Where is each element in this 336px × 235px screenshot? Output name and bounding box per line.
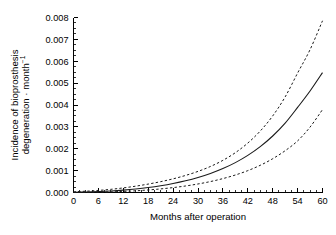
x-axis-tick-label: 0 xyxy=(71,196,76,206)
y-axis-tick-label: 0.004 xyxy=(46,100,69,110)
series-line xyxy=(74,21,323,192)
y-axis-tick-label: 0.005 xyxy=(46,78,69,88)
series-line xyxy=(74,73,323,193)
y-axis-major-ticks xyxy=(74,18,79,193)
incidence-line-chart: 0.0000.0010.0020.0030.0040.0050.0060.007… xyxy=(0,0,336,235)
y-axis-tick-label: 0.002 xyxy=(46,144,69,154)
y-axis-tick-label: 0.000 xyxy=(46,188,69,198)
x-axis-title: Months after operation xyxy=(150,211,246,222)
x-axis-tick-label: 12 xyxy=(118,196,128,206)
x-axis-tick-label: 24 xyxy=(168,196,178,206)
y-axis-tick-label: 0.007 xyxy=(46,35,69,45)
x-axis-tick-label: 30 xyxy=(193,196,203,206)
x-axis-tick-label: 36 xyxy=(218,196,228,206)
y-axis-tick-label: 0.006 xyxy=(46,57,69,67)
x-axis-tick-label: 54 xyxy=(292,196,302,206)
y-axis-tick-label: 0.001 xyxy=(46,166,69,176)
y-axis-tick-label: 0.003 xyxy=(46,122,69,132)
y-axis-tick-label: 0.008 xyxy=(46,13,69,23)
x-axis-tick-labels: 06121824303642485460 xyxy=(71,196,328,206)
y-axis-title: Incidence of bioprosthesis degeneration … xyxy=(9,49,31,160)
y-axis: 0.0000.0010.0020.0030.0040.0050.0060.007… xyxy=(46,13,79,198)
y-axis-title-line-1: Incidence of bioprosthesis xyxy=(9,49,20,160)
series-line xyxy=(74,110,323,193)
data-series-group xyxy=(74,21,323,193)
y-axis-title-line-2: degeneration · month−1 xyxy=(19,55,30,154)
chart-figure: 0.0000.0010.0020.0030.0040.0050.0060.007… xyxy=(0,0,336,235)
x-axis-tick-label: 60 xyxy=(317,196,327,206)
x-axis-tick-label: 48 xyxy=(268,196,278,206)
y-axis-tick-labels: 0.0000.0010.0020.0030.0040.0050.0060.007… xyxy=(46,13,69,198)
x-axis-tick-label: 42 xyxy=(243,196,253,206)
x-axis-tick-label: 6 xyxy=(96,196,101,206)
x-axis-tick-label: 18 xyxy=(143,196,153,206)
